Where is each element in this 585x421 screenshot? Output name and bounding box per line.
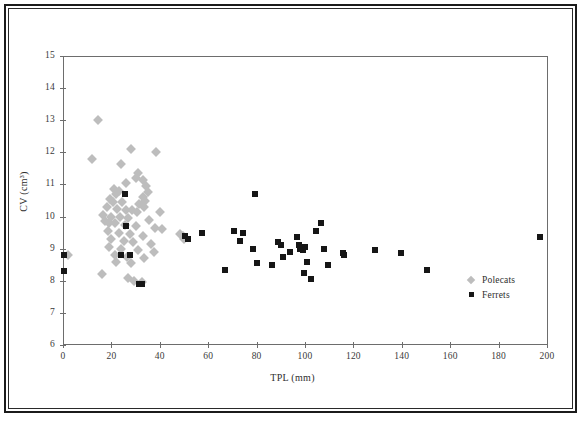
x-tick-label: 140 — [394, 351, 409, 361]
legend-label: Ferrets — [482, 290, 510, 300]
y-tick-label: 7 — [29, 307, 55, 317]
figure: 6789101112131415 02040608010012014016018… — [0, 0, 585, 421]
x-tick-label: 60 — [203, 351, 213, 361]
square-icon — [464, 292, 478, 297]
x-tick-label: 80 — [252, 351, 262, 361]
y-tick-mark — [60, 120, 66, 121]
plot-box-right-edge — [547, 56, 548, 346]
diamond-icon — [464, 277, 478, 283]
y-tick-mark — [60, 88, 66, 89]
x-tick-mark — [450, 342, 451, 348]
y-tick-label: 15 — [29, 50, 55, 60]
y-tick-mark — [60, 184, 66, 185]
x-tick-label: 200 — [540, 351, 555, 361]
x-tick-mark — [547, 342, 548, 348]
y-tick-label: 12 — [29, 146, 55, 156]
y-tick-mark — [60, 313, 66, 314]
x-tick-label: 20 — [106, 351, 116, 361]
x-tick-mark — [305, 342, 306, 348]
x-tick-label: 180 — [491, 351, 506, 361]
legend-item-ferrets: Ferrets — [464, 287, 515, 302]
x-tick-mark — [208, 342, 209, 348]
x-tick-mark — [353, 342, 354, 348]
x-tick-label: 120 — [346, 351, 361, 361]
y-tick-mark — [60, 281, 66, 282]
y-axis-label: CV (cm³) — [18, 147, 29, 237]
x-tick-label: 100 — [298, 351, 313, 361]
plot-box-top-edge — [63, 56, 547, 57]
legend: PolecatsFerrets — [464, 272, 515, 302]
y-tick-label: 11 — [29, 178, 55, 188]
y-tick-label: 9 — [29, 243, 55, 253]
legend-label: Polecats — [482, 275, 515, 285]
y-tick-label: 8 — [29, 275, 55, 285]
square-icon-glyph — [469, 292, 474, 297]
x-axis-label: TPL (mm) — [0, 372, 585, 383]
y-tick-mark — [60, 249, 66, 250]
x-tick-mark — [257, 342, 258, 348]
y-tick-mark — [60, 56, 66, 57]
y-tick-mark — [60, 152, 66, 153]
y-tick-mark — [60, 217, 66, 218]
legend-item-polecats: Polecats — [464, 272, 515, 287]
y-tick-label: 14 — [29, 82, 55, 92]
x-tick-label: 160 — [443, 351, 458, 361]
x-tick-mark — [160, 342, 161, 348]
x-tick-label: 40 — [155, 351, 165, 361]
x-tick-mark — [63, 342, 64, 348]
x-tick-label: 0 — [61, 351, 66, 361]
y-tick-label: 13 — [29, 114, 55, 124]
x-tick-mark — [402, 342, 403, 348]
x-tick-mark — [499, 342, 500, 348]
y-tick-label: 10 — [29, 211, 55, 221]
y-tick-label: 6 — [29, 339, 55, 349]
x-tick-mark — [111, 342, 112, 348]
diamond-icon-glyph — [467, 275, 475, 283]
